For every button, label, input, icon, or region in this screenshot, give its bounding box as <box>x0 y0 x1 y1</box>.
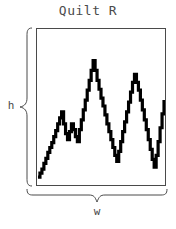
quilt-figure: Quilt R h w <box>0 0 176 229</box>
height-label: h <box>4 99 18 112</box>
plot-frame <box>36 28 166 186</box>
width-label: w <box>26 205 168 218</box>
height-brace <box>18 27 34 187</box>
quilt-profile-line <box>38 61 164 178</box>
quilt-profile-chart <box>37 29 165 185</box>
width-brace <box>26 188 168 204</box>
page-title: Quilt R <box>0 3 176 18</box>
